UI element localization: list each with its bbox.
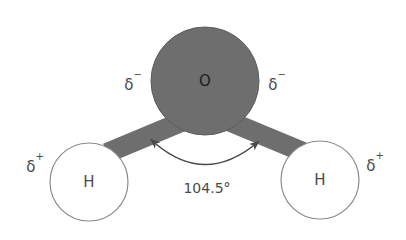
molecule-canvas: O H H δ− δ− δ+ δ+ 104.5°: [0, 0, 406, 240]
partial-charge-hydrogen-left: δ+: [26, 151, 44, 176]
delta-glyph: δ: [26, 158, 35, 176]
delta-glyph: δ: [268, 76, 277, 94]
oxygen-atom-label: O: [199, 72, 211, 90]
charge-sign-glyph: −: [277, 69, 285, 80]
bond-oxygen-hydrogen-right: [226, 120, 303, 152]
water-molecule-diagram: O H H δ− δ− δ+ δ+ 104.5°: [0, 0, 406, 240]
bond-angle-label: 104.5°: [183, 180, 230, 196]
hydrogen-atom-left-label: H: [83, 173, 94, 191]
partial-charge-hydrogen-right: δ+: [366, 150, 384, 175]
partial-charge-oxygen-right: δ−: [268, 69, 286, 94]
partial-charge-oxygen-left: δ−: [124, 69, 142, 94]
delta-glyph: δ: [124, 76, 133, 94]
delta-glyph: δ: [366, 157, 375, 175]
hydrogen-atom-right-label: H: [314, 171, 325, 189]
bond-angle-arc: [156, 142, 258, 165]
charge-sign-glyph: +: [375, 150, 383, 161]
charge-sign-glyph: −: [133, 69, 141, 80]
charge-sign-glyph: +: [35, 151, 43, 162]
